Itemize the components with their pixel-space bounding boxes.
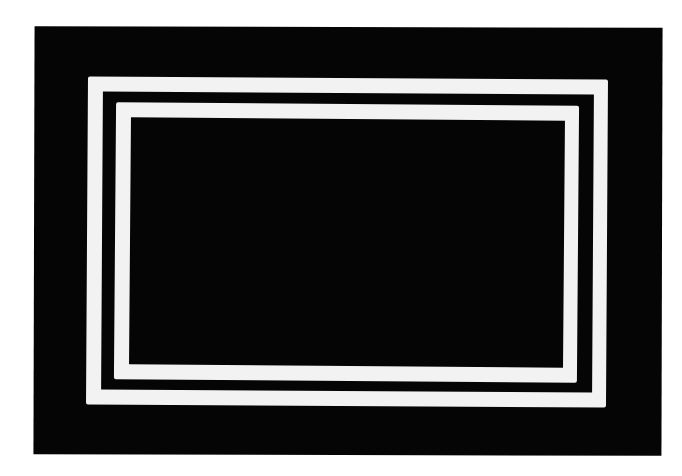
inner-white-border bbox=[114, 102, 579, 383]
black-field bbox=[33, 26, 662, 456]
